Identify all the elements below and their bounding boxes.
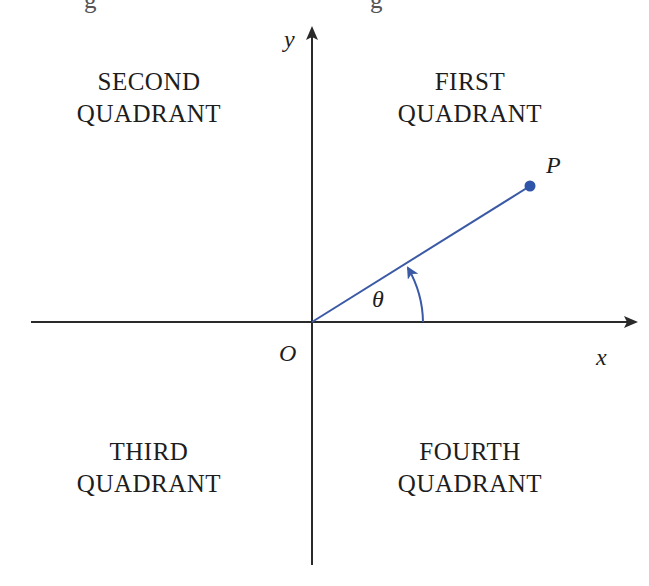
second-quadrant-line2: QUADRANT (49, 98, 249, 130)
third-quadrant-line2: QUADRANT (49, 468, 249, 500)
fourth-quadrant-line1: FOURTH (370, 436, 570, 468)
point-p-label: P (546, 152, 561, 179)
x-axis-label: x (596, 344, 607, 371)
angle-arc-arrow (408, 268, 423, 322)
angle-theta-label: θ (372, 286, 384, 313)
first-quadrant-label: FIRST QUADRANT (370, 66, 570, 130)
third-quadrant-line1: THIRD (49, 436, 249, 468)
coordinate-plane-diagram: g g SECOND QUADRANT FIRST QUADRANT THIRD (0, 0, 649, 586)
origin-label: O (279, 340, 296, 367)
fourth-quadrant-label: FOURTH QUADRANT (370, 436, 570, 500)
first-quadrant-line2: QUADRANT (370, 98, 570, 130)
third-quadrant-label: THIRD QUADRANT (49, 436, 249, 500)
first-quadrant-line1: FIRST (370, 66, 570, 98)
fourth-quadrant-line2: QUADRANT (370, 468, 570, 500)
y-axis-label: y (284, 26, 295, 53)
point-p (525, 181, 536, 192)
second-quadrant-line1: SECOND (49, 66, 249, 98)
second-quadrant-label: SECOND QUADRANT (49, 66, 249, 130)
